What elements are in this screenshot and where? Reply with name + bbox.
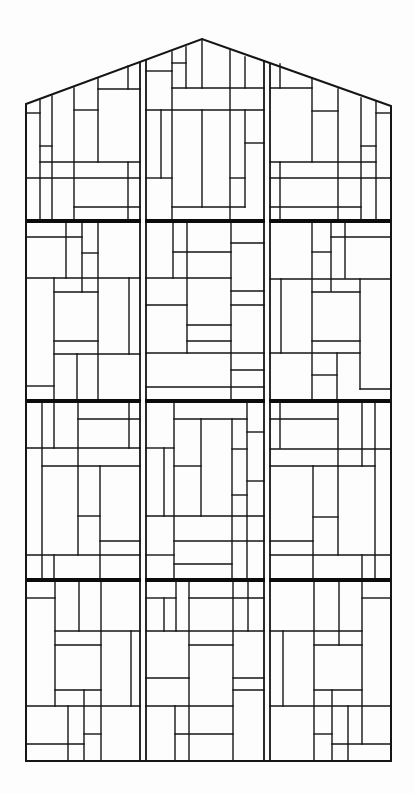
mullions — [140, 60, 270, 761]
tier-3 — [26, 401, 391, 580]
tier-4 — [26, 580, 391, 761]
transom-bars — [26, 221, 391, 580]
tier-2 — [26, 221, 391, 401]
tier-1-gable — [26, 39, 391, 221]
window-elevation-svg — [0, 0, 414, 794]
left-mullion — [140, 60, 146, 761]
right-mullion — [264, 61, 270, 761]
stained-glass-window-drawing — [0, 0, 414, 794]
